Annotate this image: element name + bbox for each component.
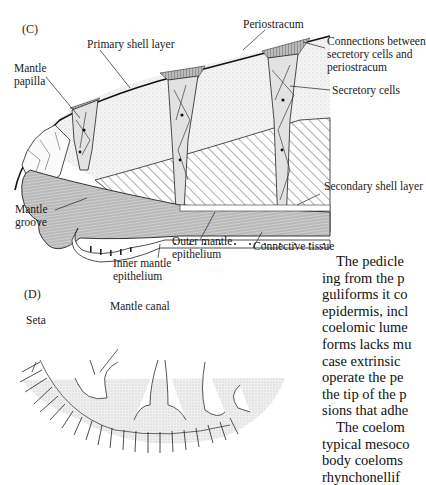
label-primary-shell-layer: Primary shell layer: [87, 38, 175, 51]
label-mantle-papilla: Mantle papilla: [14, 62, 47, 88]
panel-d-label: (D): [24, 287, 41, 302]
label-secondary-shell-layer: Secondary shell layer: [324, 180, 423, 193]
body-text: The pedicle ing from the p guliforms it …: [322, 253, 411, 485]
label-mantle-canal: Mantle canal: [110, 300, 170, 313]
label-outer-mantle-epithelium: Outer mantle epithelium: [172, 235, 232, 261]
label-secretory-cells: Secretory cells: [332, 84, 400, 97]
label-periostracum: Periostracum: [243, 18, 304, 31]
label-inner-mantle-epithelium: Inner mantle epithelium: [113, 257, 171, 283]
label-mantle-groove: Mantle groove: [15, 203, 48, 229]
label-connections: Connections between secretory cells and …: [327, 35, 426, 74]
label-seta: Seta: [26, 314, 46, 327]
label-connective-tissue: Connective tissue: [253, 240, 334, 253]
panel-c-label: (C): [22, 22, 38, 37]
